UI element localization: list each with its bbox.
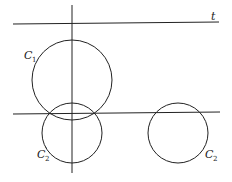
- label-c1-subscript: 1: [32, 56, 36, 64]
- horizontal-line: [13, 112, 220, 114]
- tangent-line-t: [13, 22, 219, 24]
- label-c2-subscript: 2: [213, 155, 217, 163]
- label-t: t: [211, 10, 216, 23]
- label-c2-prime-subscript: 2: [45, 155, 49, 163]
- geometry-diagram: t C 1 C ′ 2 C 2: [0, 0, 232, 182]
